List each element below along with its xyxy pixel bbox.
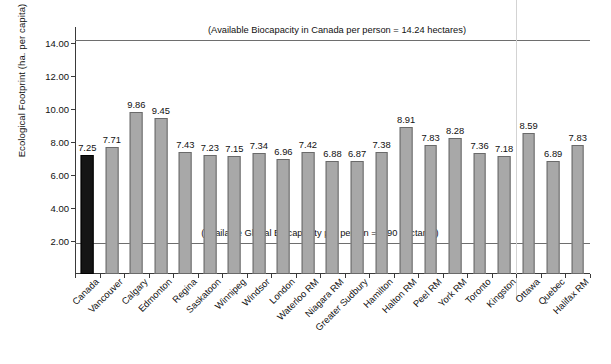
ecological-footprint-bar-chart: Ecological Footprint (ha. per capita) 2.…: [0, 0, 611, 364]
bar-slot: 7.18: [492, 27, 517, 274]
y-tick-label: 4.00: [23, 203, 69, 214]
bar-slot: 7.23: [198, 27, 223, 274]
bar-value-label: 9.45: [152, 105, 170, 116]
y-tick-label: 12.00: [23, 71, 69, 82]
bar-slot: 8.59: [516, 27, 541, 274]
bar-value-label: 6.88: [323, 148, 341, 159]
bar-slot: 7.83: [418, 27, 443, 274]
bar[interactable]: [81, 155, 94, 274]
y-tick-label: 14.00: [23, 38, 69, 49]
bar-value-label: 7.25: [78, 142, 96, 153]
bar-value-label: 7.43: [176, 139, 194, 150]
bar-value-label: 7.18: [495, 143, 513, 154]
bar-value-label: 8.91: [397, 114, 415, 125]
bar-value-label: 7.42: [299, 139, 317, 150]
bar-value-label: 9.86: [127, 99, 145, 110]
bar-value-label: 7.83: [421, 132, 439, 143]
bar-slot: 7.71: [100, 27, 125, 274]
bar-slot: 7.38: [369, 27, 394, 274]
y-axis-title: Ecological Footprint (ha. per capita): [16, 0, 27, 186]
bar-value-label: 6.96: [274, 146, 292, 157]
bar-slot: 6.89: [541, 27, 566, 274]
bar[interactable]: [154, 118, 167, 274]
bar-slot: 9.45: [149, 27, 174, 274]
bar[interactable]: [130, 112, 143, 274]
bar-value-label: 7.15: [225, 143, 243, 154]
bar-slot: 7.42: [296, 27, 321, 274]
plot-area: 2.004.006.008.0010.0012.0014.00 (Availab…: [75, 27, 590, 274]
y-tick-label: 10.00: [23, 104, 69, 115]
y-tick-label: 6.00: [23, 170, 69, 181]
y-tick-label: 8.00: [23, 137, 69, 148]
bar-slot: 7.25: [75, 27, 100, 274]
bar-value-label: 7.36: [471, 140, 489, 151]
bar-value-label: 8.28: [446, 125, 464, 136]
bar-slot: 7.15: [222, 27, 247, 274]
bar-value-label: 7.34: [250, 140, 268, 151]
bar-slot: 7.34: [247, 27, 272, 274]
bar-slot: 6.87: [345, 27, 370, 274]
bar-slot: 8.28: [443, 27, 468, 274]
bar-value-label: 7.23: [201, 142, 219, 153]
bar-slot: 7.36: [467, 27, 492, 274]
bar-value-label: 6.87: [348, 148, 366, 159]
x-axis-labels: CanadaVancouverCalgaryEdmontonReginaSask…: [75, 276, 590, 364]
bar-slot: 7.43: [173, 27, 198, 274]
bar-series: 7.257.719.869.457.437.237.157.346.967.42…: [75, 27, 590, 274]
bar-value-label: 7.38: [372, 139, 390, 150]
bar-slot: 7.83: [565, 27, 590, 274]
bar-value-label: 7.83: [569, 132, 587, 143]
y-tick-label: 2.00: [23, 236, 69, 247]
bar-slot: 9.86: [124, 27, 149, 274]
bar-value-label: 7.71: [103, 134, 121, 145]
bar-slot: 6.96: [271, 27, 296, 274]
bar-value-label: 8.59: [520, 120, 538, 131]
bar-value-label: 6.89: [544, 148, 562, 159]
bar-slot: 6.88: [320, 27, 345, 274]
